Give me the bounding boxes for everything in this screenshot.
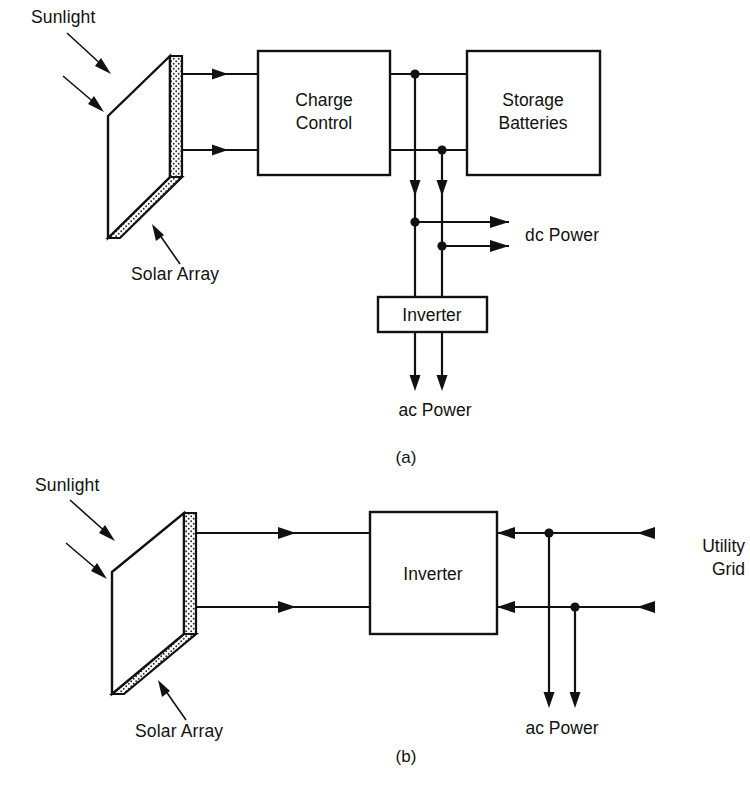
ac-power-label-a: ac Power (399, 400, 472, 420)
figure-photovoltaic-system-diagram: Sunlight Solar Array (0, 0, 750, 785)
solar-array-label-b: Solar Array (135, 721, 223, 741)
ac-power-label-b: ac Power (526, 718, 599, 738)
storage-batteries-label-line2: Batteries (498, 113, 567, 133)
junction-dot-grid-bottom (570, 602, 579, 611)
utility-grid-label-line2: Grid (712, 559, 745, 579)
junction-dot-grid-top (544, 528, 553, 537)
inverter-label-b: Inverter (403, 564, 462, 584)
solar-array-label-a: Solar Array (131, 264, 219, 284)
inverter-label-a: Inverter (402, 305, 461, 325)
charge-control-label-line1: Charge (295, 90, 352, 110)
storage-batteries-label-line1: Storage (502, 90, 563, 110)
junction-dot-dc-top (410, 217, 419, 226)
utility-grid-label-line1: Utility (702, 536, 745, 556)
sunlight-label-a: Sunlight (31, 7, 95, 27)
caption-b: (b) (396, 747, 417, 766)
junction-dot-bus-top (410, 69, 419, 78)
junction-dot-dc-bottom (437, 241, 446, 250)
dc-power-label: dc Power (525, 225, 599, 245)
charge-control-label-line2: Control (296, 113, 352, 133)
junction-dot-bus-bottom (437, 145, 446, 154)
sunlight-label-b: Sunlight (35, 475, 99, 495)
caption-a: (a) (396, 448, 417, 467)
